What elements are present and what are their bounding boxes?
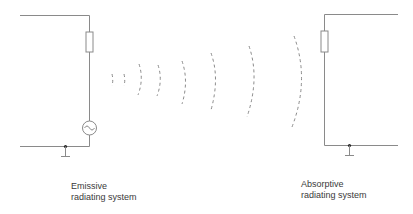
- wavefront-1: [112, 74, 113, 86]
- absorptive-system-label: Absorptive radiating system: [301, 179, 367, 201]
- emissive-circuit: [20, 16, 97, 157]
- wavefront-3: [138, 64, 141, 95]
- wavefront-5: [182, 61, 186, 104]
- wavefront-2: [124, 74, 125, 86]
- absorptive-circuit: [321, 15, 398, 156]
- resistor-icon: [321, 31, 328, 52]
- wavefronts: [112, 36, 302, 127]
- emissive-label-line2: radiating system: [71, 192, 137, 203]
- absorptive-label-line2: radiating system: [301, 190, 367, 201]
- wavefront-4: [157, 65, 160, 96]
- emissive-system-label: Emissive radiating system: [71, 181, 137, 203]
- absorptive-label-line1: Absorptive: [301, 179, 367, 190]
- wavefront-6: [211, 53, 216, 110]
- wavefront-7: [247, 46, 254, 117]
- ac-source-icon: [83, 121, 97, 135]
- emissive-label-line1: Emissive: [71, 181, 137, 192]
- wavefront-8: [292, 36, 302, 127]
- resistor-icon: [86, 32, 93, 52]
